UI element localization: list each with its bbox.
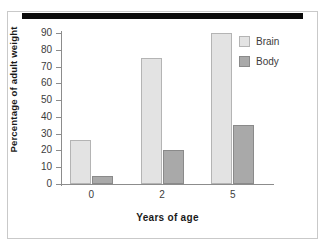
bar-brain-0[interactable] xyxy=(70,140,91,184)
y-axis-tick-label: 70 xyxy=(30,62,52,72)
x-axis-category-label: 2 xyxy=(142,189,182,200)
y-axis-title: Percentage of adult weight xyxy=(8,5,19,175)
legend-label-body: Body xyxy=(256,56,279,67)
legend-item-body[interactable]: Body xyxy=(239,56,279,67)
legend-label-brain: Brain xyxy=(256,36,279,47)
bar-brain-5[interactable] xyxy=(211,33,232,184)
y-axis-tick-label: 90 xyxy=(30,28,52,38)
bar-body-2[interactable] xyxy=(163,150,184,184)
y-axis-tick-label: 40 xyxy=(30,112,52,122)
legend-swatch-brain-icon xyxy=(239,36,250,47)
x-axis-category-label: 0 xyxy=(71,189,111,200)
y-axis-tick-label: 60 xyxy=(30,78,52,88)
redacted-title-bar xyxy=(22,13,303,19)
legend-item-brain[interactable]: Brain xyxy=(239,36,279,47)
figure-container: 9080706050403020100 Percentage of adult … xyxy=(0,0,326,247)
bar-brain-2[interactable] xyxy=(141,58,162,184)
y-axis-tick-label: 50 xyxy=(30,95,52,105)
y-axis-tick-label: 10 xyxy=(30,162,52,172)
y-axis-tick-label: 80 xyxy=(30,45,52,55)
legend: Brain Body xyxy=(239,36,279,76)
x-axis-category-label: 5 xyxy=(213,189,253,200)
y-axis-tick-label: 0 xyxy=(30,179,52,189)
legend-swatch-body-icon xyxy=(239,56,250,67)
y-axis-tick xyxy=(56,184,62,185)
bar-body-5[interactable] xyxy=(233,125,254,184)
x-axis-title: Years of age xyxy=(61,212,274,223)
bar-body-0[interactable] xyxy=(92,176,113,184)
y-axis-tick-label: 20 xyxy=(30,145,52,155)
y-axis-tick-label: 30 xyxy=(30,129,52,139)
x-axis-line xyxy=(61,184,274,185)
